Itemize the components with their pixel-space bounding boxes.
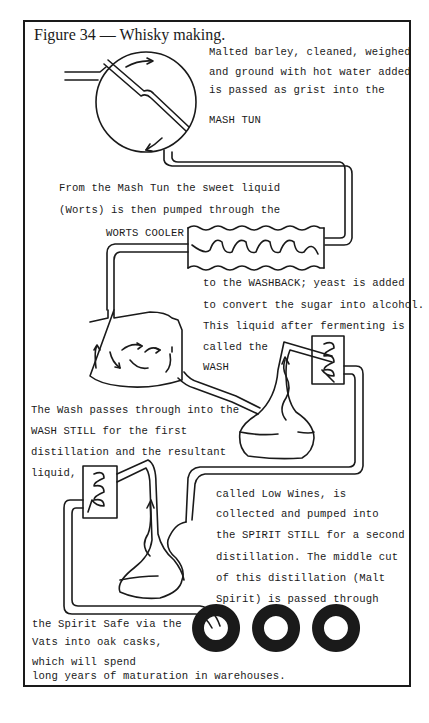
spirit-still-text-line-5: of this distillation (Malt [216,572,385,584]
worts-text-line-1: From the Mash Tun the sweet liquid [59,182,280,194]
spirit-still-text-line-6: Spirit) is passed through [216,593,379,605]
wash-still-text-line-4: liquid, [31,467,77,479]
cask-text-line-4: long years of maturation in warehouses. [32,670,286,682]
mash-text-line-3: is passed as grist into the [209,84,385,96]
washback-text-line-3: This liquid after fermenting is [203,320,405,332]
cask-text-line-1: the Spirit Safe via the [32,618,182,630]
worts-cooler-label: WORTS COOLER [106,227,184,239]
wash-still-text-line-2: WASH STILL for the first [31,425,187,437]
washback-text-line-1: to the WASHBACK; yeast is added [203,277,405,289]
mash-tun-label: MASH TUN [209,114,261,126]
spirit-still-text-line-3: the SPIRIT STILL for a second [216,529,405,541]
mash-text-line-2: and ground with hot water added [209,66,411,78]
worts-text-line-2: (Worts) is then pumped through the [59,204,280,216]
cask-text-line-3: which will spend [32,656,136,668]
wash-label: WASH [203,361,229,373]
spirit-still-text-line-2: collected and pumped into [216,508,379,520]
spirit-still-text-line-1: called Low Wines, is [216,488,346,500]
casks-icon [192,604,360,652]
wash-still-text-line-1: The Wash passes through into the [31,404,239,416]
cask-text-line-2: Vats into oak casks, [32,636,162,648]
spirit-still-text-line-4: distillation. The middle cut [216,551,398,563]
mash-text-line-1: Malted barley, cleaned, weighed [209,46,411,58]
mash-tun-icon [65,52,352,245]
washback-text-line-4: called the [203,341,268,353]
spirit-still-icon [64,460,220,628]
wash-still-text-line-3: distillation and the resultant [31,446,226,458]
washback-text-line-2: to convert the sugar into alcohol. [203,299,424,311]
